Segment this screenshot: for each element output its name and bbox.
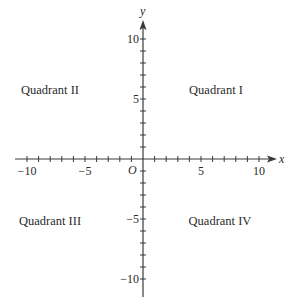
quadrant-2-label: Quadrant II <box>21 83 79 97</box>
y-axis-label: y <box>139 4 146 18</box>
quadrant-4-label: Quadrant IV <box>189 214 252 228</box>
origin-label: O <box>128 163 137 177</box>
coordinate-plane: x y O −10 −5 5 10 10 5 −5 −10 Quadrant I… <box>0 0 297 304</box>
x-tick-label-5: 5 <box>198 164 204 178</box>
x-tick-label-neg5: −5 <box>79 164 92 178</box>
x-tick-label-neg10: −10 <box>18 164 37 178</box>
y-tick-label-10: 10 <box>127 32 139 46</box>
quadrant-1-label: Quadrant I <box>189 83 243 97</box>
quadrant-3-label: Quadrant III <box>19 214 81 228</box>
x-axis-label: x <box>278 152 285 166</box>
y-tick-label-neg10: −10 <box>120 272 139 286</box>
x-tick-label-10: 10 <box>253 164 265 178</box>
y-tick-label-neg5: −5 <box>126 212 139 226</box>
y-tick-label-5: 5 <box>133 92 139 106</box>
